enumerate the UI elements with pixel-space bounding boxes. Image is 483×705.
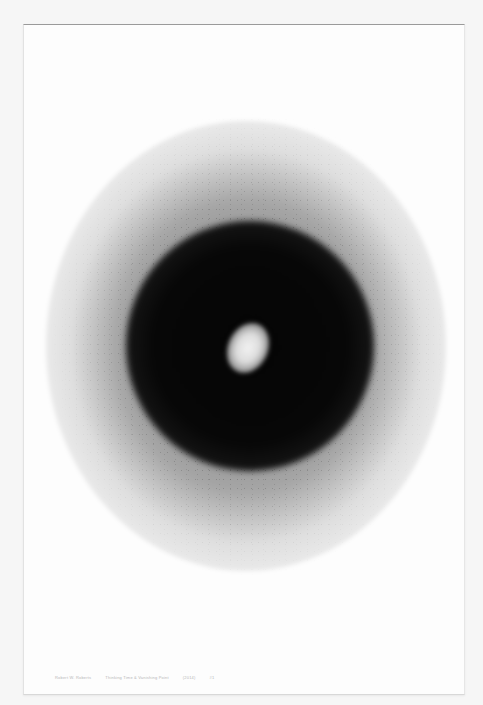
caption-artist: Robert W. Roberts bbox=[55, 675, 91, 680]
caption-date: (2014) bbox=[183, 675, 196, 680]
artwork-caption: Robert W. Roberts Thinking Time & Vanish… bbox=[55, 675, 214, 680]
caption-title: Thinking Time & Vanishing Point bbox=[105, 675, 169, 680]
caption-number: #1 bbox=[210, 675, 215, 680]
paper-sheet: Robert W. Roberts Thinking Time & Vanish… bbox=[23, 24, 465, 695]
